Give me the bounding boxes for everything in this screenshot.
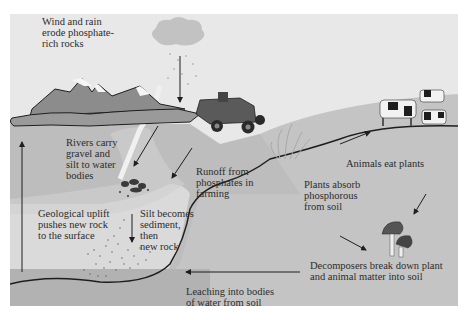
label-decomposers: Decomposers break down plant and animal … — [310, 260, 443, 282]
label-silt: Silt becomes sediment, then new rock — [140, 208, 194, 252]
label-wind-rain: Wind and rain erode phosphate- rich rock… — [42, 16, 114, 49]
label-leaching: Leaching into bodies of water from soil — [186, 286, 274, 308]
label-runoff: Runoff from phosphates in farming — [196, 166, 253, 199]
label-animals-eat: Animals eat plants — [346, 158, 424, 169]
label-plants-absorb: Plants absorb phosphorous from soil — [304, 179, 360, 212]
phosphorus-cycle-diagram: Wind and rain erode phosphate- rich rock… — [10, 14, 458, 306]
label-rivers: Rivers carry gravel and silt to water bo… — [66, 137, 118, 181]
label-uplift: Geological uplift pushes new rock to the… — [38, 208, 109, 241]
